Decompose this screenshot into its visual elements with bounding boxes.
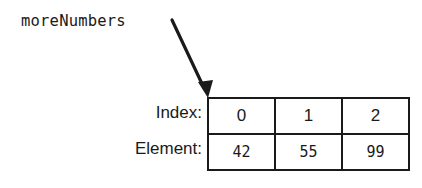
table-row-element: 42 55 99: [208, 134, 409, 170]
array-table: 0 1 2 42 55 99: [207, 97, 410, 171]
element-cell-0: 42: [208, 134, 275, 170]
index-cell-1: 1: [275, 98, 342, 134]
table-row-index: 0 1 2: [208, 98, 409, 134]
index-cell-0: 0: [208, 98, 275, 134]
variable-name-label: moreNumbers: [21, 12, 126, 30]
array-diagram-figure: moreNumbers Index: Element: 0 1 2 42 55 …: [0, 0, 422, 188]
index-cell-2: 2: [342, 98, 409, 134]
element-row-label: Element:: [135, 139, 202, 159]
index-row-label: Index:: [156, 103, 202, 123]
element-cell-2: 99: [342, 134, 409, 170]
pointer-arrow-icon: [160, 12, 220, 104]
element-cell-1: 55: [275, 134, 342, 170]
row-labels-column: Index: Element:: [60, 97, 202, 170]
